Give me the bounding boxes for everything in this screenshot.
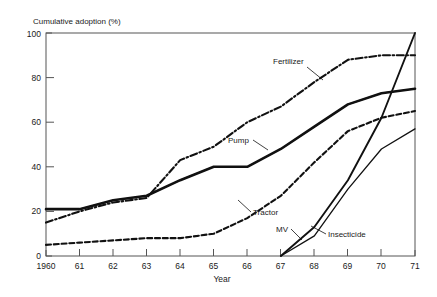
series-label-pump: Pump xyxy=(228,136,249,145)
y-tick-60: 60 xyxy=(32,117,42,127)
x-tick-61: 61 xyxy=(75,261,85,271)
curve-pump xyxy=(46,89,415,209)
y-axis-tick-labels: 0 20 40 60 80 100 xyxy=(27,29,41,261)
x-tick-66: 66 xyxy=(242,261,252,271)
x-tick-68: 68 xyxy=(309,261,319,271)
x-tick-64: 64 xyxy=(175,261,185,271)
leader-tractor xyxy=(238,200,251,212)
x-axis-title: Year xyxy=(213,274,230,284)
y-tick-20: 20 xyxy=(32,206,42,216)
x-axis-ticks xyxy=(46,249,415,256)
x-tick-67: 67 xyxy=(276,261,286,271)
leader-pump xyxy=(253,140,268,150)
curve-mv xyxy=(281,33,415,256)
y-tick-0: 0 xyxy=(36,251,41,261)
y-axis-title: Cumulative adoption (%) xyxy=(33,17,121,26)
series-label-mv: MV xyxy=(276,225,289,234)
y-tick-80: 80 xyxy=(32,73,42,83)
series-annotations: Fertilizer Pump Tractor MV Insecticide xyxy=(228,57,366,240)
adoption-line-chart: Cumulative adoption (%) 0 20 40 60 80 10… xyxy=(0,0,437,297)
series-label-insecticide: Insecticide xyxy=(328,230,366,239)
x-tick-70: 70 xyxy=(376,261,386,271)
x-tick-69: 69 xyxy=(343,261,353,271)
curve-tractor xyxy=(46,111,415,245)
series-label-fertilizer: Fertilizer xyxy=(273,57,304,66)
x-tick-63: 63 xyxy=(142,261,152,271)
x-tick-65: 65 xyxy=(209,261,219,271)
chart-container: Cumulative adoption (%) 0 20 40 60 80 10… xyxy=(0,0,437,297)
leader-fertilizer xyxy=(307,67,323,80)
x-tick-1960: 1960 xyxy=(37,261,56,271)
x-tick-62: 62 xyxy=(108,261,118,271)
leader-insecticide xyxy=(311,226,326,234)
curve-pump xyxy=(46,89,415,209)
leader-mv xyxy=(291,229,302,240)
x-tick-71: 71 xyxy=(410,261,420,271)
x-axis-tick-labels: 1960 61 62 63 64 65 66 67 68 69 70 71 xyxy=(37,261,420,271)
series-label-tractor: Tractor xyxy=(253,208,278,217)
y-tick-100: 100 xyxy=(27,29,41,39)
y-tick-40: 40 xyxy=(32,162,42,172)
